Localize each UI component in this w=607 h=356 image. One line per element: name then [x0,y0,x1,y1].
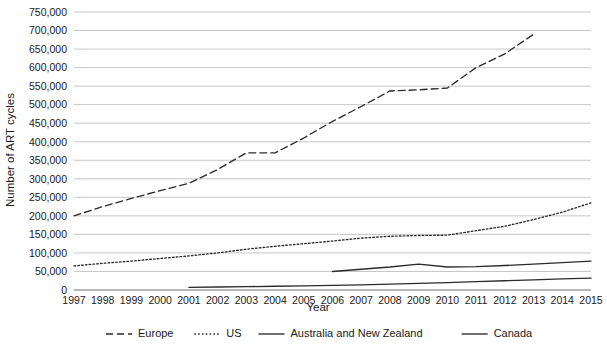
legend-item-canada[interactable]: Canada [462,327,533,339]
gridlines [74,12,591,290]
x-tick-label: 2004 [263,294,287,306]
line-chart: 050,000100,000150,000200,000250,000300,0… [0,0,607,356]
y-tick-label: 400,000 [29,136,67,148]
y-tick-label: 650,000 [29,43,67,55]
y-tick-label: 150,000 [29,228,67,240]
y-tick-label: 250,000 [29,191,67,203]
x-tick-label: 2015 [579,294,603,306]
chart-canvas: 050,000100,000150,000200,000250,000300,0… [0,0,607,356]
legend-label-us: US [226,327,241,339]
series-line-europe [74,34,534,216]
x-tick-label: 2003 [235,294,259,306]
x-tick-label: 2011 [465,294,488,306]
legend-label-australia-and-new-zealand: Australia and New Zealand [290,327,422,339]
y-tick-label: 100,000 [29,247,67,259]
legend-item-us[interactable]: US [194,327,241,339]
legend-label-canada: Canada [494,327,533,339]
y-axis-title: Number of ART cycles [4,93,16,207]
series-line-australia-and-new-zealand [333,261,592,271]
y-tick-label: 600,000 [29,61,67,73]
x-tick-label: 2014 [551,294,575,306]
x-tick-label: 2001 [177,294,201,306]
y-axis-tick-labels: 050,000100,000150,000200,000250,000300,0… [29,6,67,296]
x-tick-label: 1999 [120,294,144,306]
y-tick-label: 750,000 [29,6,67,18]
x-tick-label: 2010 [436,294,460,306]
y-tick-label: 450,000 [29,117,67,129]
y-tick-label: 350,000 [29,154,67,166]
y-tick-label: 50,000 [35,265,67,277]
x-tick-label: 1998 [91,294,115,306]
y-tick-label: 300,000 [29,173,67,185]
x-tick-label: 2009 [407,294,431,306]
x-axis-title: Year [306,301,329,313]
y-tick-label: 200,000 [29,210,67,222]
x-tick-label: 2000 [148,294,172,306]
x-tick-label: 2007 [350,294,374,306]
legend-item-europe[interactable]: Europe [106,327,173,339]
legend-item-australia-and-new-zealand[interactable]: Australia and New Zealand [258,327,422,339]
x-axis-tick-labels: 1997199819992000200120022003200420052006… [62,294,603,306]
x-tick-label: 2008 [378,294,402,306]
series-line-canada [189,278,591,287]
y-tick-label: 550,000 [29,80,67,92]
x-tick-label: 1997 [62,294,86,306]
legend-label-europe: Europe [138,327,173,339]
y-tick-label: 700,000 [29,24,67,36]
x-tick-label: 2013 [522,294,546,306]
x-tick-label: 2012 [493,294,517,306]
y-tick-label: 500,000 [29,98,67,110]
x-tick-label: 2002 [206,294,230,306]
data-series-group [74,34,591,287]
chart-legend: EuropeUSAustralia and New ZealandCanada [106,327,533,339]
